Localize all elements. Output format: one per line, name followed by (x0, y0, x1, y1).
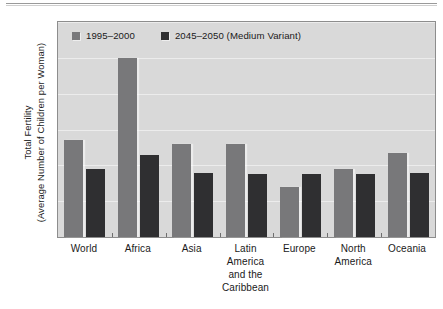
bar-series-layer (58, 22, 435, 237)
bar-group (280, 22, 321, 237)
bar (64, 140, 83, 237)
x-axis-label: Asia (165, 242, 219, 255)
bar (280, 187, 299, 237)
x-axis-label-line: America (219, 255, 273, 268)
bar (172, 144, 191, 237)
bar (86, 169, 105, 237)
plot-area: 1995–2000 2045–2050 (Medium Variant) (57, 21, 436, 238)
bar-group (118, 22, 159, 237)
x-axis-label: Africa (111, 242, 165, 255)
x-axis-label-line: Oceania (380, 242, 434, 255)
bar (388, 153, 407, 237)
x-tick-mark (220, 233, 221, 237)
x-axis-label-line: North (326, 242, 380, 255)
x-axis-label-line: Caribbean (219, 281, 273, 294)
bar (194, 173, 213, 238)
bar-group (64, 22, 105, 237)
x-axis-label: LatinAmericaand theCaribbean (219, 242, 273, 294)
x-axis-label-line: Asia (165, 242, 219, 255)
bar-group (226, 22, 267, 237)
x-axis-category-labels: WorldAfricaAsiaLatinAmericaand theCaribb… (57, 242, 436, 308)
bar-group (388, 22, 429, 237)
bar (226, 144, 245, 237)
x-tick-mark (166, 233, 167, 237)
top-divider-rule-secondary (6, 5, 437, 6)
x-axis-label: NorthAmerica (326, 242, 380, 268)
x-axis-label-line: Africa (111, 242, 165, 255)
bar (140, 155, 159, 237)
x-axis-label: World (57, 242, 111, 255)
bar-group (334, 22, 375, 237)
bar-group (172, 22, 213, 237)
x-axis-label-line: and the (219, 268, 273, 281)
x-axis-label: Oceania (380, 242, 434, 255)
bar (302, 174, 321, 237)
x-axis-label-line: Latin (219, 242, 273, 255)
x-tick-mark (273, 233, 274, 237)
top-divider-rule (6, 3, 437, 4)
bar (410, 173, 429, 238)
bar (248, 174, 267, 237)
x-axis-label-line: Europe (272, 242, 326, 255)
y-axis-title: Total Fertility (Average Number of Child… (22, 23, 47, 243)
y-axis-title-line2: (Average Number of Children per Woman) (34, 23, 47, 243)
y-axis-title-line1: Total Fertility (22, 23, 35, 243)
x-tick-mark (381, 233, 382, 237)
bar (356, 174, 375, 237)
x-tick-mark (112, 233, 113, 237)
x-axis-label-line: World (57, 242, 111, 255)
x-tick-mark (327, 233, 328, 237)
bar (118, 58, 137, 237)
bar (334, 169, 353, 237)
x-axis-label: Europe (272, 242, 326, 255)
x-axis-label-line: America (326, 255, 380, 268)
